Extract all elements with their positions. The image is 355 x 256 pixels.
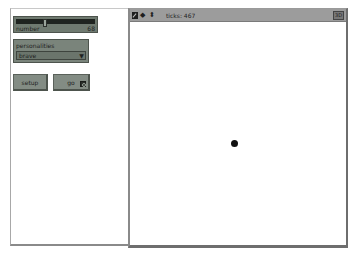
edit-icon[interactable] — [132, 12, 138, 19]
chooser-value: brave — [19, 52, 36, 60]
turtle-agent — [231, 140, 238, 147]
netlogo-window: number 68 personalities brave ▼ setup go… — [0, 0, 355, 256]
chooser-dropdown[interactable]: brave ▼ — [16, 51, 86, 60]
world-canvas[interactable] — [130, 22, 346, 245]
slider-label: number — [16, 25, 39, 32]
setup-button-label: setup — [14, 79, 46, 86]
world-view: ◆ ⬍ ticks: 467 3D — [128, 8, 348, 248]
slider-value: 68 — [87, 25, 95, 32]
view-toolbar: ◆ ⬍ ticks: 467 3D — [130, 9, 346, 22]
go-button[interactable]: go — [53, 74, 90, 91]
chooser-label: personalities — [16, 42, 54, 49]
forever-loop-icon — [80, 81, 86, 87]
slider-thumb[interactable] — [43, 19, 47, 27]
number-slider[interactable]: number 68 — [13, 16, 98, 33]
3d-view-button[interactable]: 3D — [333, 11, 344, 20]
personalities-chooser[interactable]: personalities brave ▼ — [13, 39, 89, 63]
slider-track[interactable] — [16, 19, 95, 24]
chevron-down-icon[interactable]: ▼ — [79, 53, 84, 59]
ticks-counter: ticks: 467 — [166, 12, 195, 19]
up-down-arrow-icon[interactable]: ⬍ — [149, 12, 155, 19]
left-right-arrow-icon[interactable]: ◆ — [140, 12, 147, 19]
setup-button[interactable]: setup — [13, 74, 48, 91]
